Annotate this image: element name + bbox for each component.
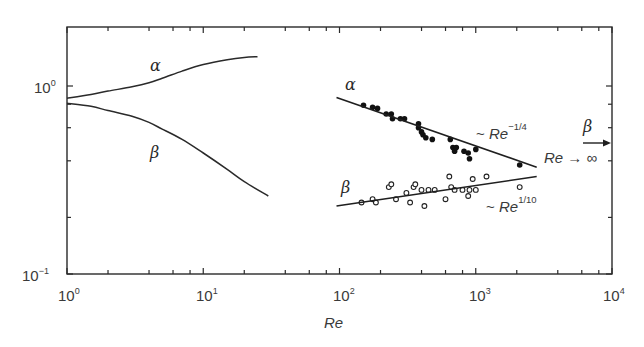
beta-data-label: β — [340, 178, 350, 197]
data-point — [423, 135, 429, 141]
data-point — [470, 177, 475, 182]
y-tick-label-1e-1: 10−1 — [22, 266, 49, 284]
plot-frame — [67, 27, 612, 274]
data-point — [430, 137, 436, 143]
data-point — [517, 185, 522, 190]
alpha-low-re-line — [67, 57, 258, 99]
data-point — [484, 174, 489, 179]
data-point — [422, 204, 427, 209]
y-axis-tick-labels: 100 10−1 — [22, 78, 56, 284]
x-axis-ticks — [67, 27, 612, 274]
data-point — [447, 174, 452, 179]
beta-fit-label: ~ Re1/10 — [486, 194, 537, 215]
annotations: α β α β ~ Re−1/4 ~ Re1/10 β Re → ∞ — [149, 56, 611, 215]
data-point — [443, 197, 448, 202]
data-point — [517, 162, 523, 168]
y-axis-ticks — [67, 86, 612, 274]
y-tick-label-1e0: 100 — [34, 78, 56, 96]
data-point — [413, 182, 418, 187]
x-tick-label-1e0: 100 — [58, 286, 80, 304]
beta-curve-label: β — [149, 143, 159, 162]
beta-low-re-line — [67, 103, 268, 196]
x-tick-label-1e3: 103 — [469, 286, 491, 304]
x-tick-label-1e2: 102 — [333, 286, 355, 304]
x-axis-title: Re — [324, 314, 343, 331]
beta-limit-arrow-icon — [583, 140, 611, 147]
x-tick-label-1e4: 104 — [603, 286, 625, 304]
limit-text: Re → ∞ — [544, 149, 598, 166]
x-axis-tick-labels: 100 101 102 103 104 — [58, 286, 625, 304]
data-point — [389, 182, 394, 187]
data-point — [404, 191, 409, 196]
data-point — [467, 188, 472, 193]
data-point — [465, 150, 471, 156]
data-point — [408, 200, 413, 205]
data-point — [467, 156, 473, 162]
data-point — [466, 194, 471, 199]
data-point — [454, 145, 460, 151]
x-tick-label-1e1: 101 — [196, 286, 218, 304]
alpha-curve-label: α — [150, 56, 161, 75]
alpha-data-label: α — [345, 75, 356, 94]
data-point — [473, 188, 478, 193]
log-log-chart: 100 101 102 103 104 100 10−1 Re α β α β … — [0, 0, 644, 347]
series-layer — [67, 57, 537, 209]
data-point — [419, 188, 424, 193]
beta-limit-label: β — [582, 117, 592, 136]
alpha-fit-label: ~ Re−1/4 — [476, 121, 527, 142]
